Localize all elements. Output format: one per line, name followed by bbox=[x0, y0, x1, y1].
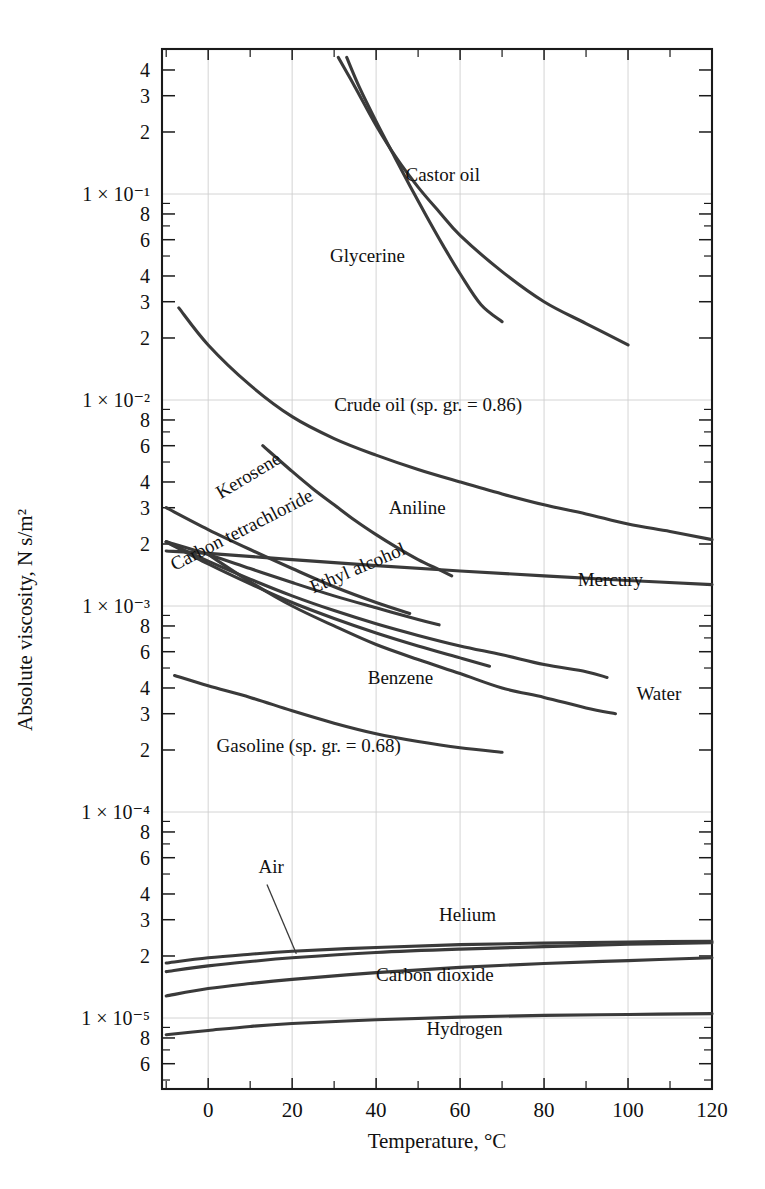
y-decade-label: 1 × 10⁻¹ bbox=[82, 183, 150, 205]
y-tick-label: 8 bbox=[140, 615, 150, 637]
y-tick-label: 6 bbox=[140, 641, 150, 663]
y-tick-label: 3 bbox=[140, 497, 150, 519]
y-tick-label: 3 bbox=[140, 85, 150, 107]
y-tick-label: 3 bbox=[140, 703, 150, 725]
y-decade-label: 1 × 10⁻⁴ bbox=[81, 801, 150, 823]
series-label-aniline: Aniline bbox=[389, 497, 446, 518]
series-label-glycerine: Glycerine bbox=[330, 245, 405, 266]
series-label-air: Air bbox=[259, 856, 285, 877]
x-tick-label: 60 bbox=[450, 1098, 471, 1122]
x-tick-label: 0 bbox=[203, 1098, 214, 1122]
y-tick-label: 3 bbox=[140, 291, 150, 313]
x-tick-label: 120 bbox=[696, 1098, 728, 1122]
y-tick-label: 2 bbox=[140, 739, 150, 761]
y-tick-label: 6 bbox=[140, 435, 150, 457]
x-tick-label: 80 bbox=[534, 1098, 555, 1122]
y-tick-label: 2 bbox=[140, 327, 150, 349]
x-tick-label: 40 bbox=[366, 1098, 387, 1122]
y-tick-label: 4 bbox=[140, 677, 150, 699]
y-axis-title: Absolute viscosity, N s/m² bbox=[13, 509, 37, 731]
y-decade-label: 1 × 10⁻³ bbox=[82, 595, 150, 617]
y-tick-label: 2 bbox=[140, 533, 150, 555]
y-tick-label: 6 bbox=[140, 229, 150, 251]
series-label-crude-oil-sp-gr-0-86: Crude oil (sp. gr. = 0.86) bbox=[334, 394, 522, 416]
y-tick-label: 8 bbox=[140, 409, 150, 431]
series-label-gasoline-sp-gr-0-68: Gasoline (sp. gr. = 0.68) bbox=[217, 735, 401, 757]
series-label-helium: Helium bbox=[439, 904, 496, 925]
y-tick-label: 2 bbox=[140, 945, 150, 967]
x-tick-label: 100 bbox=[612, 1098, 644, 1122]
y-tick-label: 4 bbox=[140, 471, 150, 493]
x-tick-label: 20 bbox=[282, 1098, 303, 1122]
y-tick-label: 2 bbox=[140, 121, 150, 143]
y-decade-label: 1 × 10⁻² bbox=[82, 389, 150, 411]
series-label-benzene: Benzene bbox=[368, 667, 433, 688]
y-decade-label: 1 × 10⁻⁵ bbox=[81, 1007, 150, 1029]
series-label-water: Water bbox=[636, 683, 682, 704]
series-label-mercury: Mercury bbox=[578, 569, 644, 590]
y-tick-label: 6 bbox=[140, 847, 150, 869]
y-tick-label: 8 bbox=[140, 1027, 150, 1049]
y-tick-label: 6 bbox=[140, 1053, 150, 1075]
y-tick-label: 3 bbox=[140, 909, 150, 931]
y-tick-label: 4 bbox=[140, 265, 150, 287]
series-label-castor-oil: Castor oil bbox=[406, 164, 480, 185]
chart-canvas: Castor oilGlycerineCrude oil (sp. gr. = … bbox=[0, 0, 765, 1189]
y-tick-label: 8 bbox=[140, 821, 150, 843]
y-tick-label: 4 bbox=[140, 59, 150, 81]
viscosity-chart-figure: Castor oilGlycerineCrude oil (sp. gr. = … bbox=[0, 0, 765, 1189]
x-axis-title: Temperature, °C bbox=[368, 1129, 507, 1153]
series-label-hydrogen: Hydrogen bbox=[427, 1018, 503, 1039]
series-label-carbon-dioxide: Carbon dioxide bbox=[376, 964, 494, 985]
y-tick-label: 4 bbox=[140, 883, 150, 905]
y-tick-label: 8 bbox=[140, 203, 150, 225]
